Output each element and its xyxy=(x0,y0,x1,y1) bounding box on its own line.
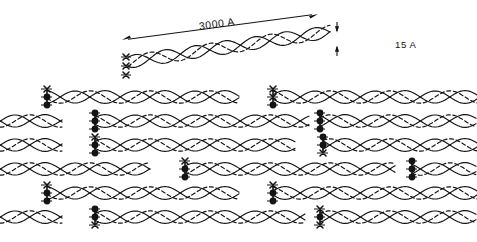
chain-dashed xyxy=(323,139,477,151)
crosslink-dot xyxy=(409,158,416,165)
crosslink-dot xyxy=(317,110,324,117)
figure-canvas: 3000 A 15 A xyxy=(0,0,477,242)
crosslink-dot xyxy=(44,102,51,109)
fibril-lattice-group xyxy=(0,91,477,224)
crosslink-dot xyxy=(270,102,277,109)
crosslink-dot xyxy=(409,174,416,181)
crosslink-dot xyxy=(92,214,99,221)
chain-solid xyxy=(320,115,476,127)
chain-solid xyxy=(323,139,477,151)
crosslink-clusters-group xyxy=(41,86,417,228)
crosslink-dot xyxy=(320,134,327,141)
chain-solid xyxy=(320,211,476,223)
crosslink-dot xyxy=(92,126,99,133)
crosslink-dot xyxy=(182,174,189,181)
crosslink-dot xyxy=(409,166,416,173)
collagen-fibril-diagram xyxy=(0,0,477,242)
crosslink-dot xyxy=(270,190,277,197)
chain-dashed xyxy=(273,187,477,199)
crosslink-dot xyxy=(317,214,324,221)
crosslink-dot xyxy=(182,166,189,173)
crosslink-dot xyxy=(320,142,327,149)
chain-solid xyxy=(320,211,476,223)
chain-dashed xyxy=(412,163,476,175)
crosslink-dot xyxy=(92,206,99,213)
chain-solid xyxy=(320,115,476,127)
chain-dashed xyxy=(273,91,477,103)
crosslink-dot xyxy=(92,142,99,149)
crosslink-dot xyxy=(92,110,99,117)
crosslink-dot xyxy=(270,198,277,205)
crosslink-dot xyxy=(44,198,51,205)
diameter-arrow-lower-head xyxy=(335,46,339,52)
crosslink-dot xyxy=(317,118,324,125)
chain-solid xyxy=(128,28,330,64)
diameter-annotation-label: 15 A xyxy=(395,39,416,50)
chain-dashed xyxy=(128,25,330,66)
crosslink-dot xyxy=(92,118,99,125)
crosslink-dot xyxy=(317,126,324,133)
diameter-arrow-upper-head xyxy=(335,26,339,32)
crosslink-dot xyxy=(44,94,51,101)
crosslink-dot xyxy=(92,150,99,157)
chain-dashed xyxy=(95,139,295,151)
chain-solid xyxy=(323,139,477,151)
single-molecule-group xyxy=(121,25,330,78)
crosslink-dot xyxy=(44,190,51,197)
chain-solid xyxy=(95,139,295,151)
